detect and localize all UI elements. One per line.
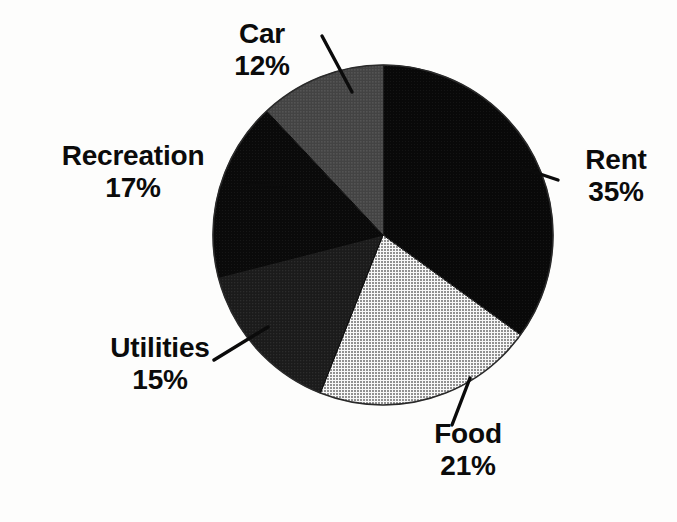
- pie-slices: [213, 65, 553, 405]
- slice-label-car-value: 12%: [208, 50, 316, 82]
- slice-label-utilities: Utilities 15%: [78, 332, 242, 397]
- slice-label-recreation-name: Recreation: [22, 140, 244, 172]
- slice-label-food: Food 21%: [408, 418, 528, 483]
- slice-label-utilities-name: Utilities: [78, 332, 242, 364]
- slice-label-rent-name: Rent: [564, 144, 668, 176]
- slice-label-food-name: Food: [408, 418, 528, 450]
- slice-label-food-value: 21%: [408, 450, 528, 482]
- pie-chart-figure: Car 12% Recreation 17% Utilities 15% Ren…: [0, 0, 677, 522]
- slice-label-recreation-value: 17%: [22, 172, 244, 204]
- slice-label-rent-value: 35%: [564, 176, 668, 208]
- slice-label-rent: Rent 35%: [564, 144, 668, 209]
- slice-label-car-name: Car: [208, 18, 316, 50]
- pie-chart-graphic: [0, 0, 677, 522]
- leader-line-recreation: [246, 184, 284, 186]
- slice-label-recreation: Recreation 17%: [22, 140, 244, 205]
- slice-label-car: Car 12%: [208, 18, 316, 83]
- slice-label-utilities-value: 15%: [78, 364, 242, 396]
